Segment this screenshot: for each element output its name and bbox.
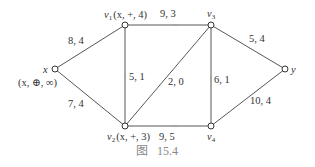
node-v3-name: v3 bbox=[207, 8, 216, 21]
node-v2 bbox=[122, 123, 128, 129]
arrow-icon bbox=[162, 78, 166, 83]
node-x-label: (x, ⊕, ∞) bbox=[18, 77, 58, 89]
node-v3 bbox=[208, 22, 214, 28]
node-v2-name: v2(x, +, 3) bbox=[107, 131, 151, 144]
figure-caption-prefix: 图 bbox=[136, 144, 148, 158]
node-v1 bbox=[122, 22, 128, 28]
edge-label-v3-v2: 2, 0 bbox=[168, 76, 184, 87]
node-x-name: x bbox=[42, 64, 48, 75]
arrow-icon bbox=[95, 40, 101, 44]
edge-label-v1-v3: 9, 3 bbox=[160, 8, 176, 19]
arrow-icon bbox=[256, 88, 261, 92]
node-y-name: y bbox=[290, 64, 296, 75]
network-flow-diagram: x (x, ⊕, ∞) v1(x, +, 4) v2(x, +, 3) v3 v… bbox=[0, 0, 315, 167]
arrow-icon bbox=[258, 53, 263, 56]
node-v1-name: v1(x, +, 4) bbox=[104, 9, 148, 22]
node-x bbox=[52, 66, 58, 72]
figure-caption-number: 15.4 bbox=[157, 144, 178, 158]
edge-label-x-v2: 7, 4 bbox=[68, 98, 85, 109]
edge-label-v1-v2: 5, 1 bbox=[129, 71, 145, 82]
node-y bbox=[282, 66, 288, 72]
edge-label-v4-v3: 6, 1 bbox=[214, 74, 230, 85]
arrow-icon bbox=[92, 99, 98, 104]
edge-label-v3-y: 5, 4 bbox=[249, 33, 266, 44]
node-v4-name: v4 bbox=[207, 131, 216, 144]
node-v4 bbox=[208, 123, 214, 129]
edge-x-v1 bbox=[55, 25, 125, 69]
edge-v3-y bbox=[211, 25, 285, 69]
edge-label-v2-v4: 9, 5 bbox=[159, 131, 175, 142]
edge-x-v2 bbox=[55, 69, 125, 126]
edge-label-v4-y: 10, 4 bbox=[250, 95, 272, 106]
edge-label-x-v1: 8, 4 bbox=[68, 35, 85, 46]
